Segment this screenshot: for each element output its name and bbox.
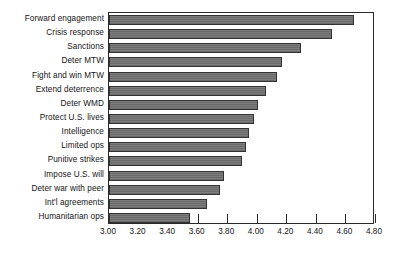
bar-row: [109, 156, 375, 166]
x-axis-label: 4.80: [366, 227, 382, 237]
x-axis-label: 4.20: [277, 227, 293, 237]
bar-row: [109, 57, 375, 67]
bar: [109, 15, 354, 25]
category-axis: Forward engagementCrisis responseSanctio…: [0, 12, 104, 224]
category-label: Humanitarian ops: [0, 212, 104, 222]
x-axis-label: 3.00: [100, 227, 116, 237]
category-label: Sanctions: [0, 42, 104, 52]
value-axis: 3.003.203.403.603.804.004.204.404.604.80: [108, 224, 374, 240]
bar-row: [109, 114, 375, 124]
bar: [109, 72, 277, 82]
bar: [109, 185, 220, 195]
x-axis-label: 3.20: [130, 227, 146, 237]
category-label: Int'l agreements: [0, 198, 104, 208]
bar: [109, 114, 254, 124]
bar-row: [109, 29, 375, 39]
category-label: Fight and win MTW: [0, 71, 104, 81]
bar: [109, 213, 190, 223]
bar: [109, 29, 332, 39]
category-label: Forward engagement: [0, 14, 104, 24]
bar-row: [109, 128, 375, 138]
bar: [109, 57, 282, 67]
category-label: Crisis response: [0, 28, 104, 38]
bar-row: [109, 185, 375, 195]
bar: [109, 43, 301, 53]
bar: [109, 128, 249, 138]
category-label: Extend deterrence: [0, 85, 104, 95]
x-axis-label: 4.40: [307, 227, 323, 237]
x-axis-label: 4.60: [336, 227, 352, 237]
bar-row: [109, 171, 375, 181]
category-label: Intelligence: [0, 127, 104, 137]
x-axis-label: 4.00: [248, 227, 264, 237]
category-label: Limited ops: [0, 141, 104, 151]
category-label: Deter war with peer: [0, 184, 104, 194]
category-label: Protect U.S. lives: [0, 113, 104, 123]
x-axis-label: 3.80: [218, 227, 234, 237]
category-label: Impose U.S. will: [0, 170, 104, 180]
bar-row: [109, 213, 375, 223]
bar-chart: Forward engagementCrisis responseSanctio…: [0, 0, 405, 256]
bar-row: [109, 72, 375, 82]
bar: [109, 171, 224, 181]
bar: [109, 86, 266, 96]
bar: [109, 100, 258, 110]
bar-row: [109, 15, 375, 25]
bar: [109, 156, 242, 166]
bar-row: [109, 86, 375, 96]
bar: [109, 142, 246, 152]
bar-row: [109, 199, 375, 209]
bar-row: [109, 100, 375, 110]
category-label: Deter MTW: [0, 56, 104, 66]
x-axis-label: 3.40: [159, 227, 175, 237]
bar: [109, 199, 207, 209]
category-label: Deter WMD: [0, 99, 104, 109]
plot-area: [108, 12, 374, 224]
category-label: Punitive strikes: [0, 155, 104, 165]
bar-row: [109, 142, 375, 152]
bar-row: [109, 43, 375, 53]
x-axis-tick: [375, 214, 376, 223]
x-axis-label: 3.60: [189, 227, 205, 237]
